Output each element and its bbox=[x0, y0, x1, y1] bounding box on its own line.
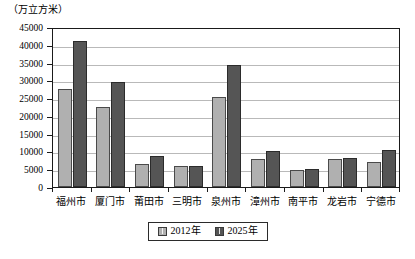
x-axis-tick bbox=[52, 188, 53, 192]
x-axis-category-label: 泉州市 bbox=[211, 195, 241, 209]
bar-group bbox=[53, 29, 92, 187]
bar-group bbox=[362, 29, 401, 187]
x-axis-category-label: 三明市 bbox=[172, 195, 202, 209]
x-axis-tick bbox=[168, 188, 169, 192]
y-axis-tick-label: 40000 bbox=[19, 41, 43, 51]
x-axis-tick bbox=[399, 188, 400, 192]
bar-2012 bbox=[328, 159, 342, 187]
x-axis-tick bbox=[245, 188, 246, 192]
bar-group bbox=[324, 29, 363, 187]
bar-2012 bbox=[135, 164, 149, 187]
x-axis-category-label: 莆田市 bbox=[134, 195, 164, 209]
x-axis-category-label: 厦门市 bbox=[95, 195, 125, 209]
bar-2025 bbox=[150, 156, 164, 187]
bar-group bbox=[246, 29, 285, 187]
legend-item: 2012年 bbox=[158, 225, 201, 237]
legend-label: 2025年 bbox=[228, 225, 258, 237]
bar-2012 bbox=[174, 166, 188, 187]
y-axis-tick-label: 15000 bbox=[19, 130, 43, 140]
legend-label: 2012年 bbox=[171, 225, 201, 237]
x-axis-category-label: 南平市 bbox=[288, 195, 318, 209]
bar-2025 bbox=[343, 158, 357, 187]
bar-group bbox=[285, 29, 324, 187]
x-axis-tick bbox=[323, 188, 324, 192]
y-axis-tick-label: 35000 bbox=[19, 59, 43, 69]
plot-area bbox=[52, 28, 400, 188]
y-axis-tick-label: 10000 bbox=[19, 147, 43, 157]
bars-layer bbox=[53, 29, 399, 187]
y-axis-tick-label: 20000 bbox=[19, 112, 43, 122]
y-axis-tick-label: 5000 bbox=[24, 165, 43, 175]
y-axis-tick-label: 0 bbox=[38, 183, 43, 193]
x-axis-category-label: 福州市 bbox=[56, 195, 86, 209]
bar-2012 bbox=[367, 162, 381, 187]
bar-chart: （万立方米） 450004000035000300002500020000150… bbox=[0, 0, 415, 259]
legend-swatch-2025 bbox=[215, 227, 224, 236]
legend-swatch-2012 bbox=[158, 227, 167, 236]
y-axis-tick-label: 45000 bbox=[19, 23, 43, 33]
x-axis-tick bbox=[284, 188, 285, 192]
bar-2025 bbox=[111, 82, 125, 187]
x-axis-tick bbox=[361, 188, 362, 192]
bar-group bbox=[208, 29, 247, 187]
bar-2025 bbox=[382, 150, 396, 187]
y-axis-tick-label: 25000 bbox=[19, 94, 43, 104]
bar-2025 bbox=[227, 65, 241, 187]
bar-2012 bbox=[290, 170, 304, 187]
bar-2025 bbox=[266, 151, 280, 187]
bar-2012 bbox=[96, 107, 110, 187]
legend-item: 2025年 bbox=[215, 225, 258, 237]
x-axis-tick bbox=[91, 188, 92, 192]
legend: 2012年2025年 bbox=[148, 222, 268, 241]
y-axis: 4500040000350003000025000200001500010000… bbox=[0, 0, 52, 259]
bar-2012 bbox=[212, 97, 226, 187]
y-axis-tick-label: 30000 bbox=[19, 76, 43, 86]
bar-2025 bbox=[305, 169, 319, 187]
bar-2025 bbox=[189, 166, 203, 187]
bar-2012 bbox=[251, 159, 265, 187]
x-axis-tick bbox=[129, 188, 130, 192]
x-axis-tick bbox=[207, 188, 208, 192]
bar-group bbox=[130, 29, 169, 187]
x-axis-ticks bbox=[52, 188, 400, 193]
bar-2012 bbox=[58, 89, 72, 187]
bar-group bbox=[92, 29, 131, 187]
x-axis-category-label: 漳州市 bbox=[250, 195, 280, 209]
x-axis-category-label: 龙岩市 bbox=[327, 195, 357, 209]
bar-2025 bbox=[73, 41, 87, 187]
bar-group bbox=[169, 29, 208, 187]
x-axis-labels: 福州市厦门市莆田市三明市泉州市漳州市南平市龙岩市宁德市 bbox=[52, 195, 400, 211]
x-axis-category-label: 宁德市 bbox=[366, 195, 396, 209]
